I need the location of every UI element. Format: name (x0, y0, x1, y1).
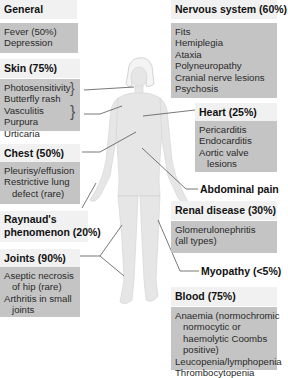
nervous-content: Fits Hemiplegia Ataxia Polyneuropathy Cr… (171, 23, 277, 98)
heart-item: lesions (199, 158, 273, 169)
chest-item: defect (rare) (4, 188, 76, 199)
skin-item: Photosensitivity (4, 82, 76, 93)
joints-item: of hip (rare) (4, 281, 76, 292)
skin-header: Skin (75%) (0, 59, 80, 78)
general-header: General (0, 0, 77, 19)
chest-content: Pleurisy/effusion Restrictive lung defec… (0, 162, 80, 204)
nervous-header: Nervous system (60%) (171, 0, 277, 19)
blood-item: haemolytic Coombs (175, 333, 273, 344)
joints-item: joints (4, 304, 76, 315)
blood-content: Anaemia (normochromic normocytic or haem… (171, 307, 277, 370)
nervous-item: Cranial nerve lesions (175, 72, 273, 83)
general-item: Depression (4, 37, 74, 48)
blood-item: positive) (175, 344, 273, 355)
heart-item: Aortic valve (199, 147, 273, 158)
general-item: Fever (50%) (4, 26, 74, 37)
joints-header: Joints (90%) (0, 249, 80, 268)
skin-brace-icon: } (70, 79, 75, 97)
nervous-item: Psychosis (175, 83, 273, 94)
joints-item: Arthritis in small (4, 293, 76, 304)
raynauds-label: Raynaud's phenomenon (20%) (0, 211, 88, 242)
general-content: Fever (50%) Depression (0, 23, 78, 53)
blood-item: Anaemia (normochromic (175, 310, 273, 321)
nervous-item: Ataxia (175, 49, 273, 60)
joints-content: Aseptic necrosis of hip (rare) Arthritis… (0, 267, 80, 317)
skin-item: Butterfly rash (4, 93, 76, 104)
renal-item: (all types) (175, 235, 273, 246)
heart-item: Endocarditis (199, 135, 273, 146)
chest-item: Restrictive lung (4, 176, 76, 187)
skin-brace-icon: } (70, 103, 75, 121)
chest-header: Chest (50%) (0, 144, 80, 163)
abdominal-pain-label: Abdominal pain (198, 183, 281, 196)
raynauds-line: Raynaud's (4, 213, 84, 226)
skin-item: Urticaria (4, 128, 76, 139)
renal-content: Glomerulonephritis (all types) (171, 221, 277, 253)
skin-content: Photosensitivity Butterfly rash Vasculit… (0, 79, 80, 131)
skin-item: Vasculitis (4, 105, 76, 116)
blood-item: Thrombocytopenia (175, 367, 273, 378)
nervous-item: Polyneuropathy (175, 60, 273, 71)
heart-item: Pericarditis (199, 124, 273, 135)
skin-item: Purpura (4, 116, 76, 127)
joints-item: Aseptic necrosis (4, 270, 76, 281)
heart-content: Pericarditis Endocarditis Aortic valve l… (195, 121, 277, 172)
renal-item: Glomerulonephritis (175, 224, 273, 235)
blood-item: Leucopenia/lymphopenia (175, 356, 273, 367)
chest-item: Pleurisy/effusion (4, 165, 76, 176)
heart-header: Heart (25%) (195, 103, 277, 122)
blood-item: normocytic or (175, 321, 273, 332)
renal-header: Renal disease (30%) (171, 201, 277, 220)
raynauds-line: phenomenon (20%) (4, 226, 84, 239)
nervous-item: Fits (175, 26, 273, 37)
nervous-item: Hemiplegia (175, 37, 273, 48)
myopathy-label: Myopathy (<5%) (199, 265, 283, 278)
blood-header: Blood (75%) (171, 287, 277, 306)
